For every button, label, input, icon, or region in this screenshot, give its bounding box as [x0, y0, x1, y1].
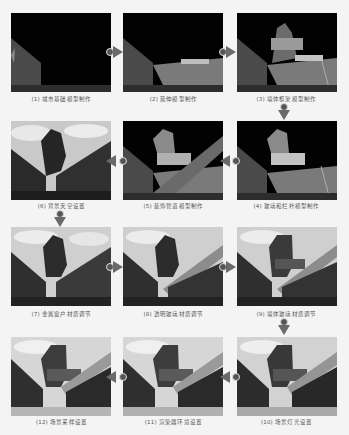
- step-1-image: [11, 13, 111, 92]
- render-renderer-environment: [123, 337, 223, 416]
- render-city-base: [11, 13, 111, 92]
- step-11-caption: (11) 渲染器环境设置: [117, 418, 230, 426]
- step-1-caption: (1) 城市基础模型制作: [5, 95, 118, 103]
- step-6-caption: (6) 背景天空设置: [5, 202, 118, 210]
- step-10-caption: (10) 场景灯光设置: [230, 418, 343, 426]
- step-12-caption: (12) 场景采样设置: [5, 418, 118, 426]
- step-3-caption: (3) 墙体框架模型制作: [230, 95, 343, 103]
- step-7-caption: (7) 金属窗户材质调节: [5, 310, 118, 318]
- render-sky-background: [11, 121, 111, 200]
- step-12-image: [11, 337, 111, 416]
- render-glass-railing: [237, 121, 337, 200]
- render-transparent-glass-material: [123, 227, 223, 306]
- step-5-image: [123, 121, 223, 200]
- step-4-caption: (4) 玻璃和栏杆模型制作: [230, 202, 343, 210]
- step-6-image: [11, 121, 111, 200]
- render-scene-lighting: [237, 337, 337, 416]
- render-extension: [123, 13, 223, 92]
- step-9-image: [237, 227, 337, 306]
- step-11-image: [123, 337, 223, 416]
- render-decorative-pipes: [123, 121, 223, 200]
- step-2-caption: (2) 延伸模型制作: [117, 95, 230, 103]
- step-4-image: [237, 121, 337, 200]
- render-metal-window-material: [11, 227, 111, 306]
- step-3-image: [237, 13, 337, 92]
- step-10-image: [237, 337, 337, 416]
- render-wall-frame: [237, 13, 337, 92]
- step-5-caption: (5) 装饰管道模型制作: [117, 202, 230, 210]
- step-7-image: [11, 227, 111, 306]
- step-2-image: [123, 13, 223, 92]
- step-9-caption: (9) 墙体玻璃材质调节: [230, 310, 343, 318]
- render-scene-sampling: [11, 337, 111, 416]
- step-8-caption: (8) 透明玻璃材质调节: [117, 310, 230, 318]
- render-wall-glass-material: [237, 227, 337, 306]
- step-8-image: [123, 227, 223, 306]
